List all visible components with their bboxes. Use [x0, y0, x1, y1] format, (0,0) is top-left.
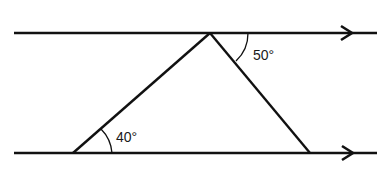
triangle-left-side: [73, 33, 210, 153]
angle-arc-50: [236, 33, 248, 61]
diagram-svg: 50° 40°: [0, 0, 389, 183]
angle-arc-40: [101, 129, 112, 153]
geometry-diagram: 50° 40°: [0, 0, 389, 183]
angle-label-40: 40°: [116, 129, 137, 145]
angle-label-50: 50°: [253, 47, 274, 63]
